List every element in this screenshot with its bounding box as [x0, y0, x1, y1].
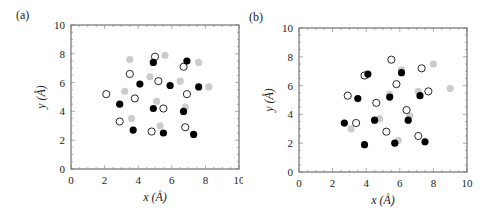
data-point-open-circle [160, 105, 167, 112]
y-tick-label: 8 [60, 48, 66, 60]
scatter-plot-a: 02468100246810x (Å)y (Å) [0, 0, 243, 212]
x-tick-label: 4 [363, 177, 369, 189]
data-point-open-circle [425, 88, 432, 95]
data-point-gray-filled [146, 73, 153, 80]
data-point-filled-black [364, 70, 371, 77]
data-point-open-circle [103, 91, 110, 98]
y-tick-label: 2 [60, 134, 66, 146]
y-tick-label: 6 [288, 80, 294, 92]
data-point-filled-black [391, 140, 398, 147]
data-point-open-circle [373, 99, 380, 106]
x-tick-label: 4 [135, 174, 141, 186]
data-point-filled-black [361, 141, 368, 148]
data-point-open-circle [182, 124, 189, 131]
y-tick-label: 2 [288, 137, 294, 149]
y-tick-label: 10 [54, 19, 66, 31]
scatter-plot-b: 02468100246810x (Å)y (Å) [243, 0, 486, 212]
data-point-filled-black [116, 101, 123, 108]
data-point-gray-filled [430, 60, 437, 67]
data-point-open-circle [126, 70, 133, 77]
data-point-gray-filled [195, 59, 202, 66]
data-point-gray-filled [121, 88, 128, 95]
panel-b: (b) 02468100246810x (Å)y (Å) [243, 0, 486, 212]
x-tick-label: 6 [397, 177, 403, 189]
data-point-filled-black [354, 95, 361, 102]
data-point-open-circle [403, 106, 410, 113]
data-point-filled-black [183, 57, 190, 64]
y-tick-label: 8 [288, 51, 294, 63]
data-point-gray-filled [447, 85, 454, 92]
y-tick-label: 4 [288, 108, 294, 120]
x-axis-title: x (Å) [142, 190, 167, 204]
data-point-open-circle [183, 91, 190, 98]
data-point-open-circle [383, 128, 390, 135]
plot-frame [299, 28, 467, 172]
data-point-filled-black [195, 83, 202, 90]
data-point-gray-filled [161, 52, 168, 59]
y-axis-title: y (Å) [262, 88, 276, 113]
y-tick-label: 6 [60, 77, 66, 89]
data-point-open-circle [116, 118, 123, 125]
x-tick-label: 0 [68, 174, 74, 186]
data-point-filled-black [421, 138, 428, 145]
y-axis-title: y (Å) [34, 85, 48, 110]
plot-frame [71, 25, 239, 169]
x-tick-label: 2 [330, 177, 336, 189]
data-point-open-circle [344, 92, 351, 99]
panel-a: (a) 02468100246810x (Å)y (Å) [0, 0, 243, 212]
data-point-gray-filled [126, 56, 133, 63]
data-point-open-circle [388, 56, 395, 63]
x-tick-label: 2 [102, 174, 108, 186]
data-point-gray-filled [205, 83, 212, 90]
y-tick-label: 0 [60, 163, 66, 175]
x-tick-label: 0 [296, 177, 302, 189]
y-tick-label: 4 [60, 105, 66, 117]
data-point-gray-filled [153, 98, 160, 105]
data-point-filled-black [150, 105, 157, 112]
data-point-filled-black [341, 119, 348, 126]
data-point-filled-black [130, 127, 137, 134]
data-point-filled-black [167, 82, 174, 89]
data-point-filled-black [405, 117, 412, 124]
data-point-open-circle [393, 81, 400, 88]
x-tick-label: 10 [462, 177, 474, 189]
data-point-open-circle [131, 95, 138, 102]
data-point-open-circle [148, 128, 155, 135]
x-tick-label: 8 [431, 177, 437, 189]
x-axis-title: x (Å) [370, 193, 395, 207]
x-tick-label: 6 [169, 174, 175, 186]
data-point-gray-filled [347, 125, 354, 132]
data-point-gray-filled [156, 122, 163, 129]
data-point-filled-black [136, 80, 143, 87]
x-tick-label: 10 [234, 174, 244, 186]
data-point-open-circle [155, 78, 162, 85]
data-point-filled-black [180, 108, 187, 115]
data-point-gray-filled [177, 78, 184, 85]
data-point-filled-black [150, 59, 157, 66]
data-point-open-circle [418, 65, 425, 72]
data-point-filled-black [386, 94, 393, 101]
y-tick-label: 0 [288, 166, 294, 178]
data-point-gray-filled [128, 115, 135, 122]
x-tick-label: 8 [203, 174, 209, 186]
data-point-filled-black [398, 69, 405, 76]
data-point-filled-black [371, 117, 378, 124]
data-point-open-circle [353, 119, 360, 126]
data-point-filled-black [160, 129, 167, 136]
y-tick-label: 10 [282, 22, 294, 34]
data-point-open-circle [415, 132, 422, 139]
data-point-filled-black [190, 131, 197, 138]
data-point-filled-black [416, 92, 423, 99]
